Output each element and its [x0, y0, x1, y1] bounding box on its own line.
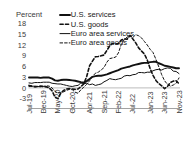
line-chart: Percent 1815129630-3 Jul-19Dec-19May-20O…	[0, 0, 184, 154]
y-axis-tick-labels: 1815129630-3	[18, 19, 26, 103]
x-axis-ticks	[29, 109, 179, 112]
y-tick-label: 9	[22, 51, 26, 60]
legend-item: Euro area goods	[60, 38, 127, 47]
y-tick-label: 3	[22, 73, 26, 82]
legend-label: Euro area services	[71, 29, 135, 38]
y-tick-label: 18	[18, 19, 26, 28]
series-line-u-s-services	[29, 62, 179, 83]
legend-label: U.S. services	[71, 10, 116, 19]
legend-item: U.S. services	[60, 10, 116, 19]
y-tick-label: 0	[22, 84, 26, 93]
y-tick-label: 6	[22, 62, 26, 71]
y-axis-unit-label: Percent	[16, 10, 43, 19]
series-line-euro-area-services	[29, 68, 179, 87]
y-axis-unit-text: Percent	[16, 10, 43, 19]
legend-label: U.S. goods	[71, 20, 109, 29]
y-tick-label: 12	[18, 41, 26, 50]
legend-item: U.S. goods	[60, 20, 109, 29]
legend-item: Euro area services	[60, 29, 134, 38]
y-tick-label: 15	[18, 30, 26, 39]
chart-container: Percent 1815129630-3 Jul-19Dec-19May-20O…	[0, 0, 184, 154]
chart-legend: U.S. servicesU.S. goodsEuro area service…	[60, 10, 134, 47]
legend-label: Euro area goods	[71, 38, 127, 47]
